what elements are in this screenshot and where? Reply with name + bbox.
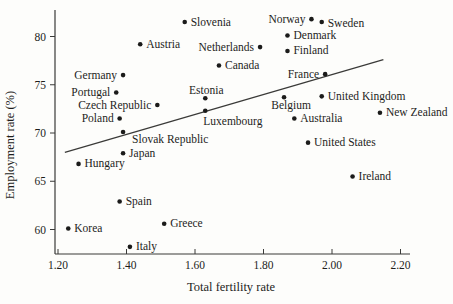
- label-korea: Korea: [74, 222, 102, 234]
- label-italy: Italy: [136, 240, 157, 253]
- label-ireland: Ireland: [359, 170, 392, 182]
- x-tick-label-2-00: 2.00: [322, 259, 342, 271]
- label-france: France: [288, 68, 319, 80]
- x-axis-title: Total fertility rate: [187, 280, 275, 294]
- x-tick-label-1-20: 1.20: [48, 259, 68, 271]
- employment-vs-fertility-scatter: 1.201.401.601.802.002.206065707580 Korea…: [0, 0, 453, 304]
- label-denmark: Denmark: [293, 29, 336, 41]
- point-germany: [121, 73, 126, 78]
- label-luxembourg: Luxembourg: [203, 115, 262, 128]
- label-united-states: United States: [314, 136, 376, 148]
- point-netherlands: [258, 45, 263, 50]
- y-tick-label-75: 75: [35, 79, 47, 91]
- y-axis-title: Employment rate (%): [3, 91, 17, 199]
- label-estonia: Estonia: [189, 84, 224, 96]
- point-canada: [217, 63, 222, 68]
- point-slovenia: [182, 20, 187, 25]
- label-japan: Japan: [129, 147, 155, 160]
- point-norway: [309, 17, 314, 22]
- point-czech-republic: [155, 103, 160, 108]
- point-denmark: [285, 33, 290, 38]
- point-france: [323, 72, 328, 77]
- point-austria: [138, 42, 143, 47]
- point-slovak-republic: [121, 130, 126, 135]
- point-united-states: [306, 140, 311, 145]
- label-spain: Spain: [126, 195, 152, 208]
- point-spain: [117, 199, 122, 204]
- point-sweden: [319, 20, 324, 25]
- label-new-zealand: New Zealand: [386, 106, 448, 118]
- label-germany: Germany: [74, 69, 117, 82]
- x-tick-label-1-80: 1.80: [253, 259, 273, 271]
- label-hungary: Hungary: [85, 157, 125, 170]
- point-hungary: [76, 162, 81, 167]
- label-poland: Poland: [82, 112, 114, 124]
- y-tick-label-70: 70: [35, 127, 47, 139]
- point-new-zealand: [378, 110, 383, 115]
- point-korea: [66, 226, 71, 231]
- point-australia: [292, 116, 297, 121]
- label-portugal: Portugal: [71, 86, 110, 99]
- point-finland: [285, 49, 290, 54]
- label-australia: Australia: [300, 112, 342, 124]
- point-portugal: [114, 90, 119, 95]
- label-greece: Greece: [170, 217, 203, 229]
- x-tick-label-2-20: 2.20: [390, 259, 410, 271]
- label-belgium: Belgium: [271, 99, 311, 112]
- x-tick-label-1-60: 1.60: [185, 259, 205, 271]
- label-finland: Finland: [293, 44, 328, 56]
- label-netherlands: Netherlands: [198, 41, 254, 53]
- label-united-kingdom: United Kingdom: [328, 90, 406, 103]
- point-ireland: [350, 174, 355, 179]
- point-estonia: [203, 96, 208, 101]
- point-italy: [128, 245, 133, 250]
- x-tick-label-1-40: 1.40: [116, 259, 136, 271]
- point-japan: [121, 151, 126, 156]
- label-czech-republic: Czech Republic: [78, 99, 151, 112]
- label-norway: Norway: [268, 13, 305, 26]
- scatter-plot-figure: 1.201.401.601.802.002.206065707580 Korea…: [0, 0, 453, 304]
- y-tick-label-60: 60: [35, 224, 47, 236]
- y-tick-label-65: 65: [35, 175, 47, 187]
- axis-ticks: 1.201.401.601.802.002.206065707580: [35, 31, 411, 272]
- y-tick-label-80: 80: [35, 31, 47, 43]
- point-poland: [117, 116, 122, 121]
- label-canada: Canada: [225, 59, 259, 71]
- label-sweden: Sweden: [328, 17, 365, 29]
- point-greece: [162, 221, 167, 226]
- point-luxembourg: [203, 109, 208, 114]
- point-united-kingdom: [319, 94, 324, 99]
- label-slovenia: Slovenia: [191, 16, 231, 28]
- label-slovak-republic: Slovak Republic: [132, 133, 208, 146]
- label-austria: Austria: [146, 38, 180, 50]
